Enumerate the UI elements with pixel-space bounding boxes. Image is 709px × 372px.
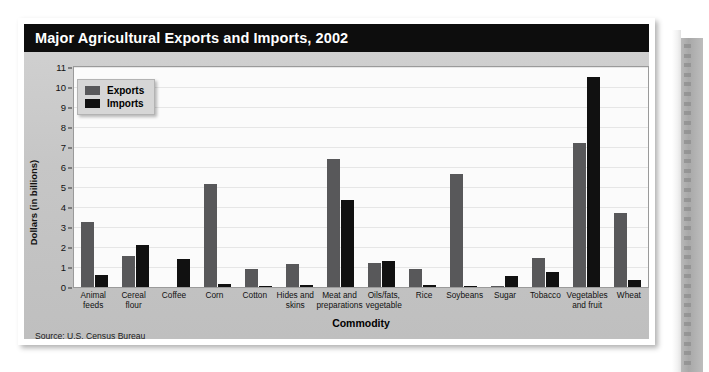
- bar-exports: [614, 213, 627, 287]
- y-tick-label: 0: [61, 282, 66, 293]
- y-tick-label: 10: [55, 82, 66, 93]
- source-note: Source: U.S. Census Bureau: [35, 331, 145, 341]
- x-tick-label: Wheat: [609, 290, 649, 310]
- x-tick-label: Coffee: [154, 290, 194, 310]
- chart-card: Major Agricultural Exports and Imports, …: [18, 18, 655, 345]
- bar-imports: [546, 272, 559, 287]
- bar-group: [566, 67, 607, 287]
- bar-group: [402, 67, 443, 287]
- legend-item-exports: Exports: [85, 85, 144, 96]
- y-tick-label: 11: [56, 62, 66, 73]
- bar-exports: [122, 256, 135, 287]
- y-axis-title-text: Dollars (in billions): [29, 159, 40, 245]
- bar-imports: [177, 259, 190, 287]
- bar-exports: [204, 184, 217, 287]
- y-tick-label: 3: [61, 222, 66, 233]
- adjacent-page-strip: [681, 38, 703, 372]
- bar-exports: [573, 143, 586, 287]
- chart-legend: Exports Imports: [77, 79, 155, 115]
- bar-exports: [286, 264, 299, 287]
- bar-imports: [136, 245, 149, 287]
- bar-group: [156, 67, 197, 287]
- x-tick-label: Meat and preparations: [315, 290, 363, 310]
- bar-imports: [382, 261, 395, 287]
- bar-group: [361, 67, 402, 287]
- y-tick-label: 4: [61, 202, 66, 213]
- y-tick-label: 6: [61, 162, 66, 173]
- bar-group: [607, 67, 648, 287]
- bar-imports: [587, 77, 600, 287]
- bar-imports: [464, 286, 477, 287]
- y-axis-title: Dollars (in billions): [26, 112, 42, 292]
- bar-exports: [368, 263, 381, 287]
- legend-label-imports: Imports: [107, 98, 144, 109]
- bar-exports: [491, 286, 504, 287]
- bar-exports: [245, 269, 258, 287]
- x-tick-label: Rice: [404, 290, 444, 310]
- card-title-bar: Major Agricultural Exports and Imports, …: [24, 24, 649, 52]
- bar-group: [484, 67, 525, 287]
- bar-group: [525, 67, 566, 287]
- bar-imports: [300, 285, 313, 287]
- x-tick-label: Soybeans: [444, 290, 484, 310]
- y-tick-label: 1: [61, 262, 66, 273]
- bar-exports: [327, 159, 340, 287]
- page-title: Major Agricultural Exports and Imports, …: [24, 30, 348, 46]
- y-axis-ticks: 01234567891011: [42, 66, 72, 288]
- x-tick-label: Cereal flour: [113, 290, 153, 310]
- bar-exports: [81, 222, 94, 287]
- bar-imports: [505, 276, 518, 287]
- y-tick-label: 5: [61, 182, 66, 193]
- chart-area: Dollars (in billions) 01234567891011 Exp…: [24, 52, 649, 339]
- y-tick-label: 7: [61, 142, 66, 153]
- legend-item-imports: Imports: [85, 98, 144, 109]
- x-tick-label: Sugar: [485, 290, 525, 310]
- bar-group: [238, 67, 279, 287]
- x-tick-label: Vegetables and fruit: [566, 290, 609, 310]
- x-tick-label: Tobacco: [525, 290, 565, 310]
- bar-group: [443, 67, 484, 287]
- x-tick-label: Corn: [194, 290, 234, 310]
- y-tick-label: 9: [61, 102, 66, 113]
- x-tick-label: Hides and skins: [275, 290, 315, 310]
- bar-imports: [341, 200, 354, 287]
- legend-swatch-imports: [85, 99, 100, 108]
- bar-imports: [218, 284, 231, 287]
- x-tick-label: Cotton: [235, 290, 275, 310]
- bar-exports: [532, 258, 545, 287]
- y-tick-label: 8: [61, 122, 66, 133]
- y-tick-label: 2: [61, 242, 66, 253]
- bar-groups: [74, 67, 648, 287]
- bar-imports: [423, 285, 436, 287]
- bar-exports: [409, 269, 422, 287]
- card-body: Major Agricultural Exports and Imports, …: [24, 24, 649, 339]
- x-axis-title: Commodity: [73, 317, 649, 329]
- bar-group: [320, 67, 361, 287]
- bar-group: [279, 67, 320, 287]
- x-tick-label: Oils/fats, vegetable: [364, 290, 404, 310]
- plot-area: [73, 66, 649, 288]
- adjacent-page-edge: [672, 30, 681, 372]
- x-tick-label: Animal feeds: [73, 290, 113, 310]
- bar-exports: [450, 174, 463, 287]
- x-axis-labels: Animal feedsCereal flourCoffeeCornCotton…: [73, 290, 649, 310]
- bar-imports: [95, 275, 108, 287]
- bar-imports: [259, 286, 272, 287]
- bar-imports: [628, 280, 641, 287]
- legend-label-exports: Exports: [107, 85, 144, 96]
- bar-group: [197, 67, 238, 287]
- legend-swatch-exports: [85, 86, 100, 95]
